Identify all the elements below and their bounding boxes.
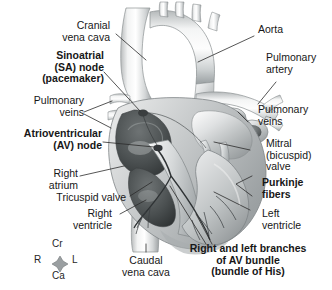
label-line: vena cava (32, 32, 110, 44)
label-right-atrium: Right atrium (30, 168, 78, 191)
label-av-bundle-branches: Right and left branches of AV bundle (bu… (168, 243, 328, 278)
label-line: Cranial (32, 20, 110, 32)
label-pulmonary-veins-left: Pulmonary veins (12, 95, 84, 118)
label-line: ventricle (50, 220, 112, 232)
label-left-ventricle: Left ventricle (262, 208, 330, 231)
aortic-branch-3 (192, 4, 201, 22)
label-line: Right and left branches (168, 243, 328, 255)
label-aorta: Aorta (258, 24, 328, 36)
aorta-arch-shape (150, 11, 214, 84)
compass-label-left: L (72, 254, 78, 265)
label-line: ventricle (262, 220, 330, 232)
aortic-branch-1 (159, 2, 168, 17)
aortic-branch-2 (175, 2, 184, 18)
label-line: fibers (262, 189, 330, 201)
compass-label-cranial: Cr (52, 238, 63, 249)
label-line: Pulmonary (266, 52, 332, 64)
label-right-ventricle: Right ventricle (50, 208, 112, 231)
label-line: Tricuspid valve (18, 192, 126, 204)
cranial-vena-cava-shape (121, 8, 152, 104)
right-atrium-highlight (128, 141, 152, 155)
label-line: atrium (30, 180, 78, 192)
label-line: Left (262, 208, 330, 220)
label-sa-node: Sinoatrial (SA) node (pacemaker) (14, 50, 104, 85)
label-line: Atrioventricular (2, 128, 102, 140)
label-line: Purkinje (262, 177, 330, 189)
label-line: Right (50, 208, 112, 220)
compass-label-caudal: Ca (52, 270, 65, 281)
label-line: Pulmonary (258, 104, 328, 116)
label-line: (AV) node (2, 140, 102, 152)
label-tricuspid-valve: Tricuspid valve (18, 192, 126, 204)
label-line: Mitral (266, 138, 332, 150)
label-pulmonary-artery: Pulmonary artery (266, 52, 332, 75)
compass-label-right: R (34, 254, 41, 265)
label-line: veins (258, 116, 328, 128)
label-line: Right (30, 168, 78, 180)
label-line: artery (266, 64, 332, 76)
figure-canvas: Cranial vena cava Sinoatrial (SA) node (… (0, 0, 332, 290)
pulmonary-vein-left-1 (110, 94, 130, 104)
label-line: (pacemaker) (14, 73, 104, 85)
label-line: Pulmonary (12, 95, 84, 107)
aortic-branch-4 (208, 12, 220, 31)
leader-pulmonary-veins-left-b (84, 114, 111, 128)
label-mitral-valve: Mitral (bicuspid) valve (266, 138, 332, 173)
label-line: veins (12, 107, 84, 119)
label-av-node: Atrioventricular (AV) node (2, 128, 102, 151)
label-cranial-vena-cava: Cranial vena cava (32, 20, 110, 43)
label-purkinje-fibers: Purkinje fibers (262, 177, 330, 200)
label-line: Sinoatrial (14, 50, 104, 62)
label-line: valve (266, 161, 332, 173)
label-line: (bundle of His) (168, 266, 328, 278)
label-pulmonary-veins-right: Pulmonary veins (258, 104, 328, 127)
leader-pulmonary-veins-left-a (84, 101, 112, 112)
label-line: Aorta (258, 24, 328, 36)
